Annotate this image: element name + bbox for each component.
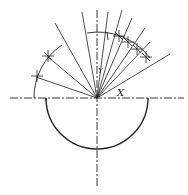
marker-3 — [113, 30, 125, 42]
marker-1 — [31, 70, 43, 82]
point-markers — [31, 30, 152, 82]
x-axis-label: X — [116, 87, 125, 98]
rays — [36, 10, 170, 98]
technical-drawing: X Y — [0, 0, 188, 195]
y-axis-label: Y — [98, 67, 104, 75]
marker-6 — [140, 51, 152, 63]
marker-5 — [131, 43, 143, 55]
